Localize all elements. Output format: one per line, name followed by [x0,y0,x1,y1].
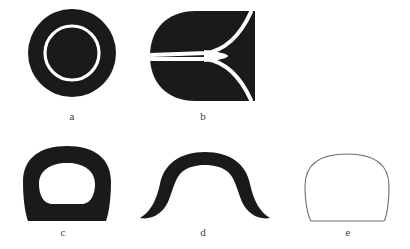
shape-d-geometry [140,152,270,218]
figure-label-e: e [322,226,374,238]
shape-b-geometry [150,11,255,101]
shape-filled-disc-with-white-ring [24,4,120,104]
figure-label-a: a [42,110,102,122]
shape-c-geometry [23,146,111,221]
shape-e-geometry [305,154,389,221]
figure-item-a [24,4,120,104]
shape-rounded-square-annulus [18,144,116,224]
figure-item-e [300,152,396,224]
figure-item-d [138,150,272,222]
shape-arch-with-flared-tips [138,150,272,222]
shape-d-shape-with-white-trident-slit [148,6,260,106]
figure-item-c [18,144,116,224]
shape-a-geometry [28,9,116,97]
figure-item-b [148,6,260,106]
figure-label-b: b [173,110,233,122]
figure-label-c: c [37,226,89,238]
figure-label-d: d [177,226,229,238]
figure-panel: a b c [0,0,410,249]
shape-rounded-square-outline [300,152,396,224]
